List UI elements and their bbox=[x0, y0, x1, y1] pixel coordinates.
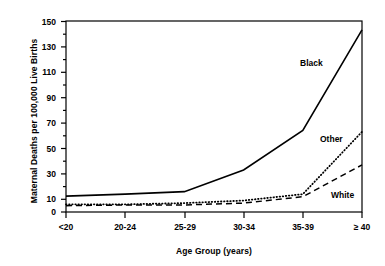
x-tick-label-20-24: 20-24 bbox=[95, 222, 155, 232]
series-label-white: White bbox=[331, 190, 354, 200]
y-tick-label-0: 0 bbox=[16, 207, 56, 217]
y-tick-label-10: 10 bbox=[16, 194, 56, 204]
series-label-other: Other bbox=[320, 134, 343, 144]
x-tick-label-35-39: 35-39 bbox=[273, 222, 333, 232]
x-axis-title: Age Group (years) bbox=[66, 246, 362, 256]
x-axis-ticks bbox=[66, 212, 362, 218]
y-tick-label-50: 50 bbox=[16, 144, 56, 154]
plot-frame bbox=[66, 21, 362, 212]
y-tick-label-70: 70 bbox=[16, 118, 56, 128]
series-line-other bbox=[66, 132, 362, 205]
chart-figure: Maternal Deaths per 100,000 Live Births … bbox=[0, 0, 385, 266]
series-label-black: Black bbox=[300, 58, 323, 68]
y-tick-label-130: 130 bbox=[16, 42, 56, 52]
x-tick-label-25-29: 25-29 bbox=[155, 222, 215, 232]
y-tick-label-110: 110 bbox=[16, 67, 56, 77]
y-tick-label-150: 150 bbox=[16, 17, 56, 27]
x-tick-label-under20: <20 bbox=[36, 222, 96, 232]
x-tick-label-40plus: ≥ 40 bbox=[332, 222, 385, 232]
series-line-white bbox=[66, 165, 362, 206]
y-axis-major-ticks bbox=[61, 22, 66, 213]
x-tick-label-30-34: 30-34 bbox=[214, 222, 274, 232]
y-tick-label-90: 90 bbox=[16, 93, 56, 103]
series-line-black bbox=[66, 30, 362, 196]
y-tick-label-30: 30 bbox=[16, 169, 56, 179]
